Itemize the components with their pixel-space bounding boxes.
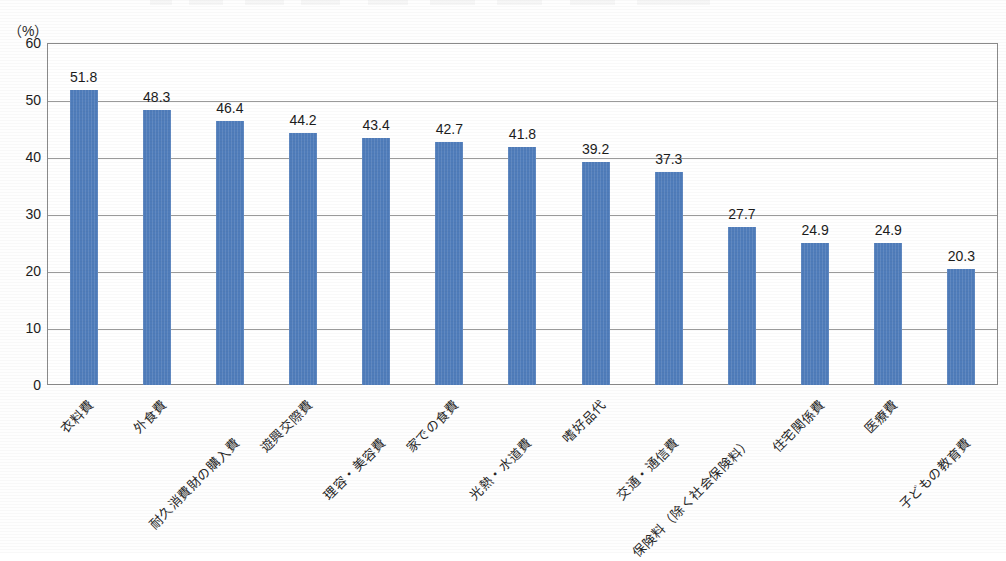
gridline-30: [48, 215, 997, 216]
x-axis-label: 嗜好品代: [557, 395, 609, 447]
x-axis-label: 医療費: [860, 395, 902, 437]
y-tick-10: 10: [3, 320, 41, 336]
x-label-slot: 家での食費: [413, 385, 486, 553]
x-axis-category-labels: 衣料費外食費耐久消費財の購入費遊興交際費理容・美容費家での食費光熱・水道費嗜好品…: [47, 385, 998, 553]
x-label-slot: 耐久消費財の購入費: [193, 385, 266, 553]
y-tick-60: 60: [3, 35, 41, 51]
x-label-slot: 衣料費: [47, 385, 120, 553]
gridline-40: [48, 158, 997, 159]
x-label-slot: 理容・美容費: [340, 385, 413, 553]
y-tick-30: 30: [3, 206, 41, 222]
gridline-50: [48, 101, 997, 102]
x-label-slot: 光熱・水道費: [486, 385, 559, 553]
x-label-slot: 遊興交際費: [266, 385, 339, 553]
x-label-slot: 医療費: [852, 385, 925, 553]
gridline-10: [48, 329, 997, 330]
x-label-slot: 子どもの教育費: [925, 385, 998, 553]
x-axis-label: 外食費: [128, 395, 170, 437]
y-axis-tick-labels: 6050403020100: [0, 43, 41, 385]
x-label-slot: 保険料（除く社会保険料）: [705, 385, 778, 553]
y-tick-50: 50: [3, 92, 41, 108]
x-axis-label: 衣料費: [55, 395, 97, 437]
y-tick-0: 0: [3, 377, 41, 393]
gridline-20: [48, 272, 997, 273]
y-tick-20: 20: [3, 263, 41, 279]
y-tick-40: 40: [3, 149, 41, 165]
x-label-slot: 住宅関係費: [779, 385, 852, 553]
plot-area: [47, 43, 998, 385]
x-label-slot: 嗜好品代: [559, 385, 632, 553]
